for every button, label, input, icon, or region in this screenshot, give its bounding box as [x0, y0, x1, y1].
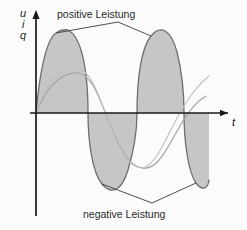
- x-axis-label-t: t: [232, 117, 235, 128]
- negative-power-label: negative Leistung: [83, 208, 165, 220]
- power-waveform-figure: u i q t positive Leistung negative Leist…: [0, 0, 247, 230]
- y-axis-label-q: q: [20, 30, 26, 41]
- positive-power-label: positive Leistung: [57, 8, 135, 20]
- waveform-plot: [0, 0, 247, 230]
